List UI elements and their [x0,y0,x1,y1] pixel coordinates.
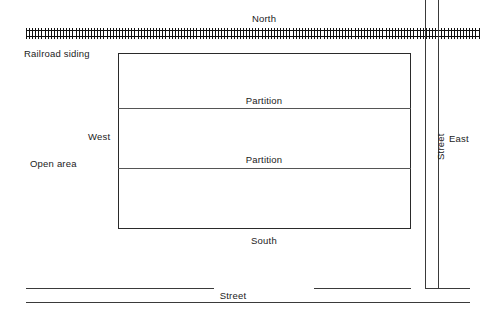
building-edge-north [118,53,411,54]
site-plan-diagram: North Railroad siding Partition Partitio… [0,0,498,328]
building-edge-west [118,53,119,229]
label-open-area: Open area [30,158,77,169]
railroad-rail-upper [26,30,480,31]
street-horizontal-south-edge [26,302,470,303]
label-street-horizontal: Street [220,290,247,301]
building-edge-east [410,53,411,229]
label-north: North [252,13,276,24]
partition-line-upper [118,108,411,109]
label-street-vertical: Street [435,133,446,160]
label-west: West [88,131,110,142]
street-horizontal-north-edge-left [26,288,214,289]
building-edge-south [118,228,411,229]
street-vertical-west-edge [425,0,426,289]
street-horizontal-north-edge-corner [425,288,470,289]
label-partition-lower: Partition [246,154,283,165]
label-railroad-siding: Railroad siding [24,48,90,59]
label-partition-upper: Partition [246,95,283,106]
street-horizontal-north-edge-right [314,288,411,289]
label-east: East [449,133,469,144]
partition-line-lower [118,168,411,169]
railroad-siding-track [26,28,480,39]
railroad-rail-lower [26,36,480,37]
label-south: South [251,235,277,246]
